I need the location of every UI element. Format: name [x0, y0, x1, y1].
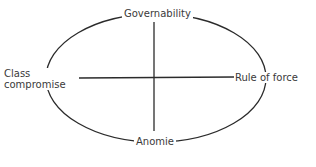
label-rule-of-force: Rule of force: [234, 72, 299, 83]
label-class-compromise-line1: Class: [4, 68, 68, 79]
horizontal-axis: [79, 77, 234, 78]
label-governability: Governability: [122, 8, 193, 19]
quadrant-diagram: Governability Anomie Class compromise Ru…: [0, 0, 316, 167]
label-class-compromise-line2: compromise: [4, 79, 68, 90]
label-anomie: Anomie: [134, 136, 176, 147]
label-class-compromise: Class compromise: [4, 68, 68, 90]
